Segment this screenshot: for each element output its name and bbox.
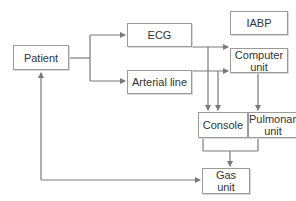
node-gas-unit-label: Gas unit: [211, 169, 241, 193]
node-pulmonary-unit: Pulmonary unit: [248, 112, 296, 138]
node-pulmonary-unit-label: Pulmonary unit: [249, 113, 296, 137]
node-arterial-line: Arterial line: [127, 70, 192, 94]
node-patient-label: Patient: [24, 52, 58, 64]
node-arterial-line-label: Arterial line: [132, 76, 187, 88]
node-computer-unit-label: Computer unit: [234, 49, 284, 73]
node-patient: Patient: [13, 45, 69, 70]
node-iabp-label: IABP: [246, 17, 271, 29]
node-computer-unit: Computer unit: [230, 48, 288, 73]
node-ecg-label: ECG: [148, 29, 172, 41]
node-console-label: Console: [203, 119, 243, 131]
node-ecg: ECG: [127, 23, 192, 47]
node-gas-unit: Gas unit: [202, 168, 250, 194]
node-iabp: IABP: [230, 11, 288, 35]
node-console: Console: [198, 112, 248, 138]
